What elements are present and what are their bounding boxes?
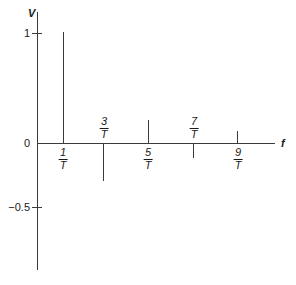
x-tick-h9-numerator: 9 [234,147,243,158]
x-tick-label-h9: 9 T [234,147,243,173]
x-tick-h7-denominator: T [190,129,199,140]
y-axis-label: V [28,8,35,19]
x-tick-h5-numerator: 5 [144,147,153,158]
x-tick-h1-denominator: T [59,160,68,171]
plot-canvas [0,0,296,285]
x-axis-label: f [281,138,285,149]
x-tick-label-h1: 1 T [59,147,68,173]
y-tick-label-1: 1 [14,28,30,39]
line-spectrum-figure: V f 1 0 −0.5 1 T 3 T 5 T 7 T [0,0,296,285]
x-tick-h1-numerator: 1 [59,147,68,158]
x-tick-h3-numerator: 3 [100,116,109,127]
y-tick-label-neg-half: −0.5 [2,202,30,213]
x-tick-label-h5: 5 T [144,147,153,173]
x-tick-h7-numerator: 7 [190,116,199,127]
x-tick-label-h3: 3 T [100,116,109,142]
x-tick-label-h7: 7 T [190,116,199,142]
x-tick-h9-denominator: T [234,160,243,171]
x-tick-h3-denominator: T [100,129,109,140]
x-tick-h5-denominator: T [144,160,153,171]
y-tick-label-0: 0 [14,138,30,149]
